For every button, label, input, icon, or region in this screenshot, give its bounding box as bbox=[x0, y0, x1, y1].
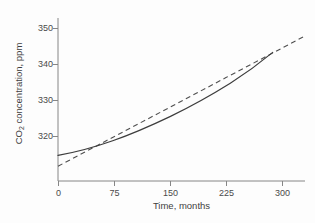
y-axis-label-subscript: 2 bbox=[18, 126, 25, 130]
x-tick-label-150: 150 bbox=[160, 188, 181, 198]
y-axis-label: CO2 concentration, ppm bbox=[13, 24, 24, 164]
y-axis-label-suffix: concentration, ppm bbox=[13, 43, 24, 126]
series-quadratic-fit bbox=[58, 52, 273, 155]
co2-concentration-chart: 350 340 330 320 0 75 150 225 300 CO2 con… bbox=[0, 0, 315, 223]
x-tick-label-75: 75 bbox=[104, 188, 125, 198]
y-axis-label-prefix: CO bbox=[13, 130, 24, 144]
x-tick-label-0: 0 bbox=[48, 188, 69, 198]
y-tick-label-330: 330 bbox=[32, 95, 53, 105]
y-tick-label-320: 320 bbox=[32, 131, 53, 141]
y-tick-label-340: 340 bbox=[32, 59, 53, 69]
x-tick-label-225: 225 bbox=[216, 188, 237, 198]
x-axis-label: Time, months bbox=[58, 200, 305, 211]
x-tick-label-300: 300 bbox=[272, 188, 293, 198]
y-tick-label-350: 350 bbox=[32, 23, 53, 33]
